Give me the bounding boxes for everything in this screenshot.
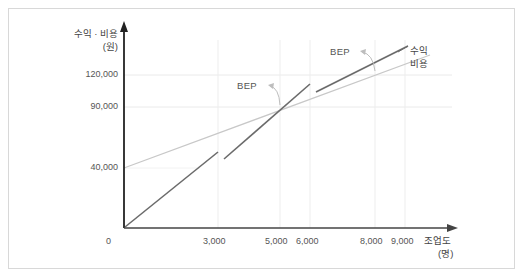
x-axis-title: 조업도	[424, 235, 451, 247]
bep-label-1: BEP	[237, 80, 257, 91]
legend-item-revenue: 수익	[410, 45, 428, 57]
y-axis-title: 수익 · 비용	[54, 28, 118, 40]
bep-arrowhead-1	[268, 83, 274, 89]
x-tick-label-6000: 6,000	[296, 236, 319, 247]
y-axis-unit: (원)	[54, 41, 118, 53]
y-tick-label-120000: 120,000	[56, 69, 118, 80]
series-line-revenue-seg1	[125, 152, 218, 227]
y-axis-unit-text: (원)	[103, 41, 118, 52]
x-tick-label-0: 0	[106, 236, 111, 247]
x-tick-label-3000: 3,000	[203, 236, 226, 247]
x-axis-unit: (명)	[438, 248, 453, 260]
x-tick-label-5000: 5,000	[265, 236, 288, 247]
x-tick-label-8000: 8,000	[360, 236, 383, 247]
series-line-revenue-seg2	[224, 84, 310, 159]
y-axis-title-text: 수익 · 비용	[74, 28, 118, 39]
y-tick-label-40000: 40,000	[56, 162, 118, 173]
legend-leader-line	[398, 46, 408, 52]
legend-item-cost: 비용	[410, 58, 428, 70]
x-axis-arrowhead	[447, 224, 458, 232]
bep-leader-arrow-1	[270, 86, 280, 105]
bep-arrowhead-2	[360, 49, 366, 55]
y-axis-arrowhead	[120, 21, 128, 32]
y-tick-label-90000: 90,000	[56, 101, 118, 112]
chart-container: 수익 · 비용 (원) 120,000 90,000 40,000 0 3,00…	[0, 0, 525, 279]
x-tick-label-9000: 9,000	[391, 236, 414, 247]
series-line-cost	[124, 55, 430, 168]
bep-label-2: BEP	[330, 46, 350, 57]
